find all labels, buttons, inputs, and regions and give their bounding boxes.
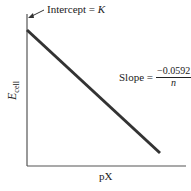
intercept-label: Intercept = K bbox=[47, 4, 105, 15]
plot-area bbox=[0, 0, 191, 191]
arrow-head-icon bbox=[28, 13, 34, 18]
y-axis-label: Ecell bbox=[6, 81, 21, 100]
data-line bbox=[27, 30, 160, 153]
x-axis-label: pX bbox=[99, 171, 112, 182]
slope-label: Slope = −0.0592 n bbox=[119, 66, 191, 88]
slope-fraction: −0.0592 n bbox=[156, 66, 191, 88]
